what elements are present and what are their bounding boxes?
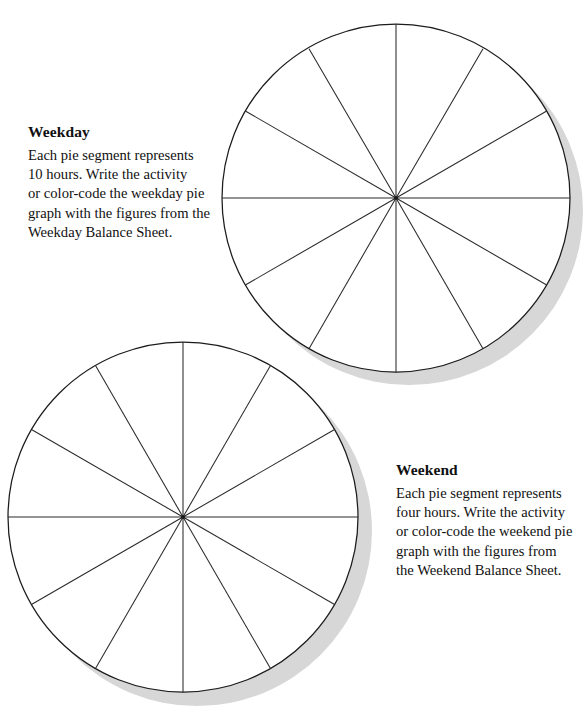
weekday-pie-center-hub bbox=[394, 196, 398, 200]
weekend-pie-svg bbox=[0, 327, 385, 719]
weekend-instructions: Each pie segment represents four hours. … bbox=[396, 484, 586, 580]
weekday-instructions: Each pie segment represents 10 hours. Wr… bbox=[28, 146, 240, 242]
weekend-pie-chart[interactable] bbox=[0, 327, 385, 719]
worksheet-page: Weekday Each pie segment represents 10 h… bbox=[0, 0, 586, 720]
weekend-caption-block: Weekend Each pie segment represents four… bbox=[396, 461, 586, 580]
weekend-heading: Weekend bbox=[396, 461, 586, 479]
weekend-pie-center-hub bbox=[181, 515, 185, 519]
weekday-heading: Weekday bbox=[28, 123, 240, 141]
weekday-caption-block: Weekday Each pie segment represents 10 h… bbox=[28, 123, 240, 242]
